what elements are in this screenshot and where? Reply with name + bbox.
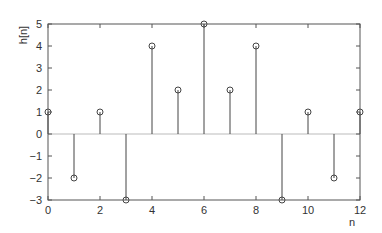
stem-point xyxy=(201,21,207,134)
stem-point xyxy=(305,109,311,134)
y-tick-label: −3 xyxy=(29,194,42,206)
stem-point xyxy=(175,87,181,134)
y-tick-label: 0 xyxy=(36,128,42,140)
x-axis-label: n xyxy=(349,216,355,228)
x-tick-label: 4 xyxy=(149,204,155,216)
stem-point xyxy=(149,43,155,134)
y-tick-label: 4 xyxy=(36,40,42,52)
y-tick-label: 3 xyxy=(36,62,42,74)
stem-point xyxy=(227,87,233,134)
stem-series xyxy=(45,21,363,203)
y-tick-label: −1 xyxy=(29,150,42,162)
stem-point xyxy=(123,134,129,203)
y-tick-label: −2 xyxy=(29,172,42,184)
y-axis-ticks: −3−2−1012345 xyxy=(29,18,360,206)
x-tick-label: 6 xyxy=(201,204,207,216)
x-tick-label: 0 xyxy=(45,204,51,216)
y-axis-label: h[n] xyxy=(17,26,29,44)
stem-point xyxy=(97,109,103,134)
x-tick-label: 12 xyxy=(354,204,366,216)
x-tick-label: 2 xyxy=(97,204,103,216)
stem-point xyxy=(331,134,337,181)
stem-point xyxy=(253,43,259,134)
x-tick-label: 8 xyxy=(253,204,259,216)
y-tick-label: 2 xyxy=(36,84,42,96)
x-axis-ticks: 024681012 xyxy=(45,24,366,216)
stem-point xyxy=(279,134,285,203)
y-tick-label: 5 xyxy=(36,18,42,30)
y-tick-label: 1 xyxy=(36,106,42,118)
x-tick-label: 10 xyxy=(302,204,314,216)
stem-point xyxy=(71,134,77,181)
stem-plot: 024681012 −3−2−1012345 n h[n] xyxy=(0,0,382,233)
